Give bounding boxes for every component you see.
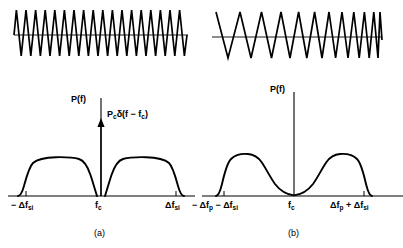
panel-a: P(f) Pcδ(f − fc) − Δfsi fc Δfsi (a) [0,0,201,248]
tick-label-right-a: Δfsi [165,201,180,210]
axis-label-pf-a: P(f) [71,95,86,104]
tick-label-center-b: fc [288,201,295,210]
tick-label-right-b: Δfp + Δfsi [330,201,369,210]
caption-b: (b) [288,229,299,238]
impulse-label-a: Pcδ(f − fc) [107,110,148,119]
impulse-arrowhead-a [97,118,104,127]
caption-a: (a) [94,229,105,238]
waveform-trace-a [14,10,187,56]
panel-b: P(f) − Δfp − Δfsi fc Δfp + Δfsi (b) [202,0,403,248]
tick-label-left-b: − Δfp − Δfsi [192,201,238,210]
tick-label-center-a: fc [95,201,102,210]
waveform-chirped [212,12,382,58]
impulse-arrow-a [97,118,104,196]
waveform-trace-b [216,12,382,58]
spectrum-axes-b [202,92,403,196]
tick-label-left-a: − Δfsi [11,201,33,210]
waveform-constant-frequency [14,10,188,56]
axis-label-pf-b: P(f) [270,85,285,94]
figure-fm-spectra: P(f) Pcδ(f − fc) − Δfsi fc Δfsi (a) [0,0,403,248]
